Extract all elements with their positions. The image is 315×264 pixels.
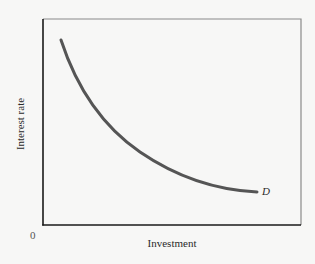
x-axis-label: Investment [148, 237, 197, 249]
investment-demand-chart: Interest rate Investment 0 D [0, 0, 315, 264]
curve-label-d: D [262, 185, 270, 197]
y-axis-label: Interest rate [14, 98, 26, 150]
plot-area [0, 0, 315, 264]
origin-label: 0 [30, 229, 36, 241]
demand-curve [61, 40, 257, 192]
